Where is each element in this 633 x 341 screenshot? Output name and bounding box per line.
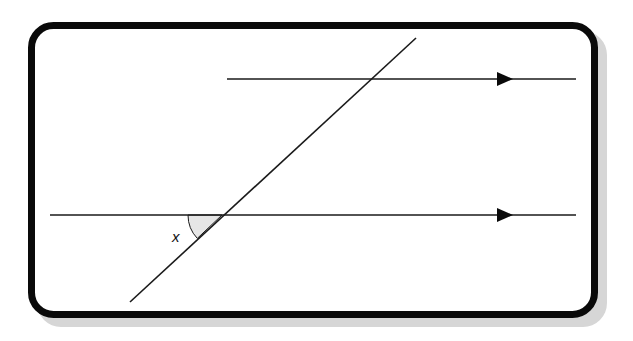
diagram-svg: x: [0, 0, 633, 341]
angle-label-x: x: [171, 228, 180, 245]
frame-border: [32, 26, 595, 315]
diagram-canvas: x: [0, 0, 633, 341]
